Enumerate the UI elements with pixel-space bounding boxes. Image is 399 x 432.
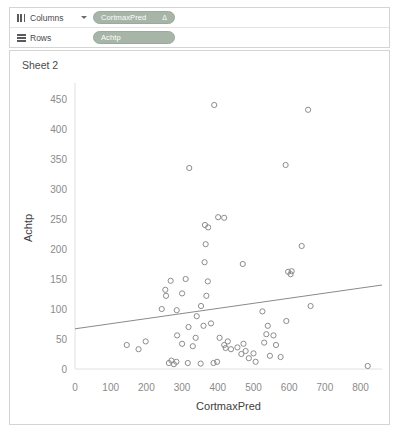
rows-shelf-label: Rows xyxy=(17,28,51,48)
data-point[interactable] xyxy=(251,351,256,356)
rows-icon xyxy=(17,34,26,42)
scatter-plot[interactable]: 050100150200250300350400450Achtp01002003… xyxy=(10,51,389,424)
x-tick-label: 200 xyxy=(138,382,155,393)
data-point[interactable] xyxy=(185,360,190,365)
data-point[interactable] xyxy=(136,347,141,352)
data-point[interactable] xyxy=(212,102,217,107)
pill-achtp[interactable]: Achtp xyxy=(93,31,175,44)
data-point[interactable] xyxy=(174,308,179,313)
pill-achtp-label: Achtp xyxy=(101,33,121,42)
data-point[interactable] xyxy=(187,165,192,170)
x-tick-label: 0 xyxy=(72,382,78,393)
rows-shelf[interactable]: Rows Achtp xyxy=(10,28,389,48)
data-point[interactable] xyxy=(306,107,311,112)
data-point[interactable] xyxy=(168,278,173,283)
y-axis-title[interactable]: Achtp xyxy=(22,214,34,242)
data-point[interactable] xyxy=(284,318,289,323)
data-point[interactable] xyxy=(204,293,209,298)
delta-icon: Δ xyxy=(152,14,167,21)
visualization-pane: Sheet 2 050100150200250300350400450Achtp… xyxy=(9,50,390,425)
data-point[interactable] xyxy=(203,242,208,247)
data-point[interactable] xyxy=(262,340,267,345)
y-tick-label: 350 xyxy=(50,154,67,165)
data-point[interactable] xyxy=(225,339,230,344)
data-point[interactable] xyxy=(240,261,245,266)
x-tick-label: 400 xyxy=(209,382,226,393)
data-point[interactable] xyxy=(278,354,283,359)
pill-cortmaxpred[interactable]: CortmaxPred Δ xyxy=(93,11,175,24)
y-tick-label: 100 xyxy=(50,304,67,315)
data-point[interactable] xyxy=(253,359,258,364)
y-axis[interactable]: 050100150200250300350400450 xyxy=(50,94,67,375)
data-point[interactable] xyxy=(183,276,188,281)
data-point[interactable] xyxy=(163,287,168,292)
data-point[interactable] xyxy=(273,342,278,347)
data-point[interactable] xyxy=(299,243,304,248)
x-tick-label: 700 xyxy=(317,382,334,393)
y-tick-label: 150 xyxy=(50,274,67,285)
data-point[interactable] xyxy=(222,215,227,220)
trend-line[interactable] xyxy=(75,285,382,329)
data-point[interactable] xyxy=(265,323,270,328)
data-point[interactable] xyxy=(186,324,191,329)
data-point[interactable] xyxy=(174,333,179,338)
columns-shelf-label: Columns xyxy=(17,8,64,28)
data-points[interactable] xyxy=(124,102,370,368)
data-point[interactable] xyxy=(246,356,251,361)
data-point[interactable] xyxy=(194,314,199,319)
shelf-area: Columns CortmaxPred Δ Rows Achtp xyxy=(9,7,390,48)
data-point[interactable] xyxy=(308,303,313,308)
data-point[interactable] xyxy=(179,341,184,346)
y-tick-label: 50 xyxy=(56,334,68,345)
data-point[interactable] xyxy=(201,323,206,328)
x-axis-title[interactable]: CortmaxPred xyxy=(196,400,261,412)
data-point[interactable] xyxy=(179,291,184,296)
data-point[interactable] xyxy=(365,363,370,368)
data-point[interactable] xyxy=(163,293,168,298)
data-point[interactable] xyxy=(228,347,233,352)
data-point[interactable] xyxy=(267,353,272,358)
data-point[interactable] xyxy=(198,303,203,308)
y-tick-label: 200 xyxy=(50,244,67,255)
data-point[interactable] xyxy=(190,344,195,349)
rows-shelf-text: Rows xyxy=(30,33,51,43)
columns-icon xyxy=(17,14,26,22)
data-point[interactable] xyxy=(271,333,276,338)
x-axis[interactable]: 0100200300400500600700800 xyxy=(72,382,369,393)
data-point[interactable] xyxy=(124,342,129,347)
y-tick-label: 300 xyxy=(50,184,67,195)
y-tick-label: 400 xyxy=(50,124,67,135)
pill-cortmaxpred-label: CortmaxPred xyxy=(101,13,146,22)
y-tick-label: 0 xyxy=(61,364,67,375)
data-point[interactable] xyxy=(159,306,164,311)
data-point[interactable] xyxy=(260,309,265,314)
columns-shelf[interactable]: Columns CortmaxPred Δ xyxy=(10,8,389,28)
y-tick-label: 450 xyxy=(50,94,67,105)
data-point[interactable] xyxy=(193,335,198,340)
data-point[interactable] xyxy=(264,332,269,337)
data-point[interactable] xyxy=(283,162,288,167)
data-point[interactable] xyxy=(243,348,248,353)
data-point[interactable] xyxy=(235,345,240,350)
y-tick-label: 250 xyxy=(50,214,67,225)
x-tick-label: 500 xyxy=(245,382,262,393)
x-tick-label: 300 xyxy=(174,382,191,393)
x-tick-label: 800 xyxy=(352,382,369,393)
chevron-down-icon[interactable] xyxy=(81,16,87,19)
data-point[interactable] xyxy=(216,215,221,220)
data-point[interactable] xyxy=(217,335,222,340)
tableau-worksheet: Columns CortmaxPred Δ Rows Achtp Sheet 2… xyxy=(0,0,399,432)
data-point[interactable] xyxy=(198,361,203,366)
data-point[interactable] xyxy=(208,321,213,326)
columns-shelf-text: Columns xyxy=(30,13,64,23)
data-point[interactable] xyxy=(205,279,210,284)
data-point[interactable] xyxy=(143,339,148,344)
data-point[interactable] xyxy=(241,341,246,346)
x-tick-label: 600 xyxy=(281,382,298,393)
x-tick-label: 100 xyxy=(102,382,119,393)
data-point[interactable] xyxy=(202,260,207,265)
